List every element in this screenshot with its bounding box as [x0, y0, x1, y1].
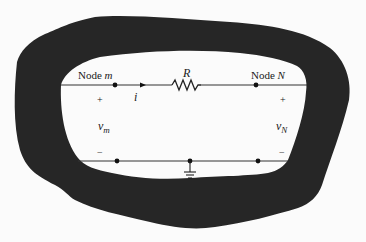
diagram-svg: Node m Node N R i + + vm vN − − [0, 0, 366, 242]
current-label: i [134, 90, 137, 104]
bottom-right-dot [256, 159, 261, 164]
current-arrow-icon [140, 83, 146, 88]
circuit-diagram: Node m Node N R i + + vm vN − − [0, 0, 366, 242]
vn-minus: − [279, 147, 285, 158]
vm-plus: + [97, 94, 103, 105]
vm-label: vm [98, 119, 110, 135]
node-n-label: Node N [251, 69, 286, 81]
bottom-left-dot [115, 159, 120, 164]
ground-icon [184, 161, 196, 178]
vn-label: vN [276, 119, 288, 135]
resistor-label: R [182, 66, 191, 80]
node-m-label: Node m [78, 69, 113, 81]
network-band [15, 16, 350, 228]
vn-plus: + [280, 94, 286, 105]
vm-minus: − [97, 147, 103, 158]
node-n-dot [254, 83, 259, 88]
node-m-dot [113, 83, 118, 88]
